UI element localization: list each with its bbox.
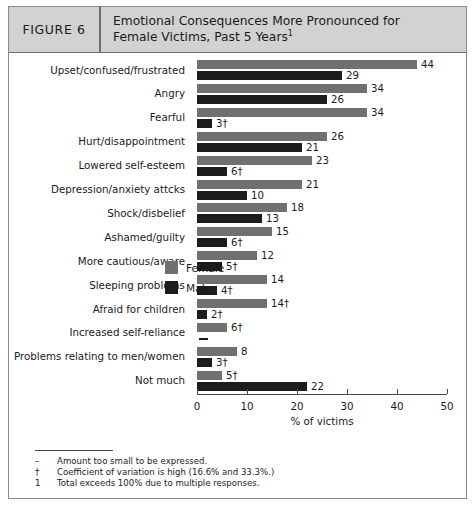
bar-female	[197, 227, 272, 236]
category-label: Afraid for children	[93, 304, 185, 315]
legend-swatch-female-icon	[165, 261, 178, 274]
footnote-list: –Amount too small to be expressed.†Coeff…	[35, 456, 466, 489]
legend-label-female: Female	[186, 262, 224, 274]
bar-male	[197, 382, 307, 391]
bar-value-label: 2†	[211, 310, 223, 319]
bar-male	[197, 71, 342, 80]
bar-value-label: 21	[306, 143, 319, 152]
bar-female	[197, 156, 312, 165]
footnote-divider	[35, 450, 113, 451]
footnote-text: Total exceeds 100% due to multiple respo…	[57, 478, 466, 489]
bar-female	[197, 180, 302, 189]
bar-value-label: 5†	[226, 371, 238, 380]
bar-value-label: 10	[251, 191, 264, 200]
bar-female	[197, 251, 257, 260]
bar-male	[197, 238, 227, 247]
category-label: Lowered self-esteem	[78, 160, 185, 171]
x-axis-tick	[247, 389, 248, 394]
bar-male	[197, 310, 207, 319]
bar-value-label: 22	[311, 382, 324, 391]
figure-title-line-2-text: Female Victims, Past 5 Years	[113, 30, 288, 44]
bar-male	[197, 143, 302, 152]
bar-value-label: 8	[241, 347, 247, 356]
bar-value-label: 6†	[231, 323, 243, 332]
legend-item-male: Male	[165, 281, 224, 294]
legend-item-female: Female	[165, 261, 224, 274]
chart-legend: Female Male	[165, 261, 224, 301]
x-axis-tick	[397, 389, 398, 394]
footnote-symbol: 1	[35, 478, 57, 489]
category-label: Problems relating to men/women	[14, 351, 185, 362]
x-axis-title: % of victims	[290, 415, 353, 427]
footnote-text: Coefficient of variation is high (16.6% …	[57, 467, 466, 478]
category-label: Upset/confused/frustrated	[50, 65, 185, 76]
bar-male	[197, 95, 327, 104]
bar-value-label: 6†	[231, 167, 243, 176]
bar-value-label: 13	[266, 214, 279, 223]
bar-value-label: 29	[346, 71, 359, 80]
bar-female	[197, 371, 222, 380]
footnote-row: 1Total exceeds 100% due to multiple resp…	[35, 478, 466, 489]
category-label: Shock/disbelief	[107, 208, 185, 219]
bar-male	[197, 119, 212, 128]
category-label: Increased self-reliance	[69, 327, 185, 338]
bar-value-label: 21	[306, 180, 319, 189]
figure-title: Emotional Consequences More Pronounced f…	[101, 7, 466, 52]
x-axis-tick	[297, 389, 298, 394]
bar-value-label: 15	[276, 227, 289, 236]
bar-value-label: 23	[316, 156, 329, 165]
bar-value-label: 5†	[226, 262, 238, 271]
x-axis-line	[197, 394, 447, 395]
bar-value-label: 26	[331, 132, 344, 141]
footnote-symbol: –	[35, 456, 57, 467]
legend-swatch-male-icon	[165, 281, 178, 294]
value-too-small-dash	[199, 338, 208, 340]
bar-value-label: 34	[371, 84, 384, 93]
bar-male	[197, 167, 227, 176]
figure-title-line-1: Emotional Consequences More Pronounced f…	[113, 14, 458, 30]
figure-title-footnote-marker: 1	[288, 28, 293, 37]
footnote-row: –Amount too small to be expressed.	[35, 456, 466, 467]
bar-female	[197, 84, 367, 93]
bar-value-label: 3†	[216, 358, 228, 367]
bar-value-label: 3†	[216, 119, 228, 128]
x-axis-tick	[347, 389, 348, 394]
category-label: Not much	[135, 375, 185, 386]
x-axis-tick-label: 10	[240, 400, 253, 412]
bar-value-label: 14†	[271, 299, 289, 308]
footnote-symbol: †	[35, 467, 57, 478]
x-axis-tick	[447, 389, 448, 394]
figure-container: FIGURE 6 Emotional Consequences More Pro…	[8, 6, 467, 499]
chart-plot-area: Upset/confused/frustratedAngryFearfulHur…	[9, 53, 466, 452]
bar-value-label: 26	[331, 95, 344, 104]
category-label: Hurt/disappointment	[78, 136, 185, 147]
x-axis-tick-label: 30	[340, 400, 353, 412]
footnote-row: †Coefficient of variation is high (16.6%…	[35, 467, 466, 478]
legend-label-male: Male	[186, 282, 211, 294]
x-axis-tick-label: 20	[290, 400, 303, 412]
bar-value-label: 14	[271, 275, 284, 284]
x-axis-tick-label: 50	[440, 400, 453, 412]
bars-and-axis: 44293426343†2621236†21101813156†125†144†…	[188, 53, 466, 452]
bar-female	[197, 132, 327, 141]
figure-number-label: FIGURE 6	[9, 7, 101, 52]
category-label: Fearful	[150, 112, 185, 123]
bar-value-label: 44	[421, 60, 434, 69]
bar-value-label: 12	[261, 251, 274, 260]
bar-female	[197, 323, 227, 332]
figure-footnotes: –Amount too small to be expressed.†Coeff…	[9, 450, 466, 498]
x-axis-tick-label: 0	[194, 400, 201, 412]
figure-title-line-2: Female Victims, Past 5 Years1	[113, 30, 458, 46]
bar-male	[197, 358, 212, 367]
bar-female	[197, 108, 367, 117]
bar-value-label: 34	[371, 108, 384, 117]
x-axis-tick-label: 40	[390, 400, 403, 412]
figure-header: FIGURE 6 Emotional Consequences More Pro…	[9, 7, 466, 53]
bar-male	[197, 191, 247, 200]
category-label: Ashamed/guilty	[104, 232, 185, 243]
bar-male	[197, 214, 262, 223]
bar-value-label: 6†	[231, 238, 243, 247]
bar-female	[197, 347, 237, 356]
category-axis-labels: Upset/confused/frustratedAngryFearfulHur…	[9, 53, 185, 452]
x-axis-tick	[197, 389, 198, 394]
